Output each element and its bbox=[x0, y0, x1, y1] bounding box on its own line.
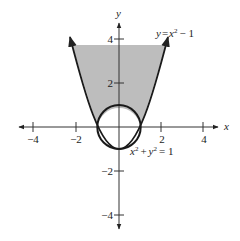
y-axis-label: y bbox=[115, 7, 121, 19]
x-axis-label: x bbox=[223, 120, 229, 132]
circle-label: x2+y2= 1 bbox=[129, 145, 173, 157]
y-tick-label: 4 bbox=[108, 33, 114, 45]
graph-canvas: −4 −2 2 4 4 2 −2 −4 x y y=x2− 1 x2+y2= 1 bbox=[0, 0, 240, 241]
y-tick-label: 2 bbox=[108, 77, 114, 89]
x-tick-label: 4 bbox=[201, 133, 207, 145]
parabola-label: y=x2− 1 bbox=[155, 27, 194, 39]
x-tick-label: 2 bbox=[159, 133, 165, 145]
y-tick-label: −4 bbox=[101, 209, 113, 221]
y-tick-label: −2 bbox=[101, 165, 113, 177]
x-tick-label: −2 bbox=[70, 133, 82, 145]
x-tick-label: −4 bbox=[27, 133, 39, 145]
